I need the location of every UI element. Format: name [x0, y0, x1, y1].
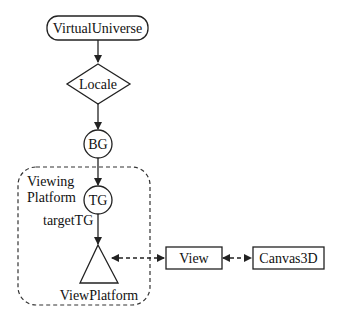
tg-label: TG	[89, 193, 108, 208]
scene-graph-diagram: Viewing Platform VirtualUniverse Locale …	[0, 0, 338, 321]
target-tg-label: targetTG	[43, 213, 93, 228]
viewing-platform-group: Viewing Platform	[18, 167, 150, 305]
view-platform-label: ViewPlatform	[60, 288, 139, 303]
node-locale: Locale	[67, 64, 130, 104]
virtual-universe-label: VirtualUniverse	[53, 21, 142, 36]
node-canvas3d: Canvas3D	[253, 247, 324, 269]
viewing-platform-label-line1: Viewing	[27, 174, 74, 189]
node-view-platform: ViewPlatform	[60, 245, 139, 303]
node-virtual-universe: VirtualUniverse	[47, 16, 148, 40]
canvas3d-label: Canvas3D	[259, 251, 317, 266]
view-label: View	[179, 251, 209, 266]
edges	[98, 40, 251, 258]
viewing-platform-label-line2: Platform	[27, 190, 76, 205]
node-bg: BG	[84, 130, 112, 158]
locale-label: Locale	[79, 77, 117, 92]
node-view: View	[166, 247, 222, 269]
bg-label: BG	[88, 137, 107, 152]
node-tg: TG	[84, 186, 112, 214]
